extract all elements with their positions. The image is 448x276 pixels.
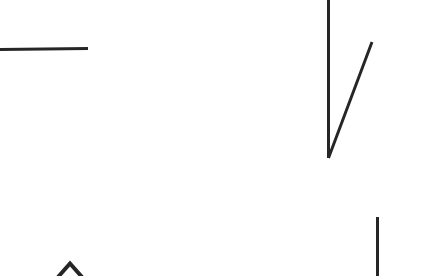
sketch-canvas-area (0, 0, 448, 276)
canvas-background (0, 0, 448, 276)
horizontal-rule-stroke (0, 49, 88, 50)
line-sketch-svg (0, 0, 448, 276)
